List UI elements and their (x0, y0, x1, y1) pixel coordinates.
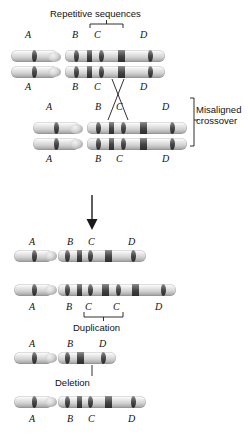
stage1-bottom-label-d: D (140, 82, 147, 92)
band (140, 122, 147, 134)
product1-label-a: A (29, 237, 35, 247)
stage1-top-label-b: B (72, 30, 78, 40)
duplication-bracket (84, 312, 123, 317)
band (77, 396, 82, 408)
chromatid-arm-right (65, 50, 165, 62)
band (131, 396, 136, 408)
chromatid-arm-right (87, 122, 187, 134)
product1-label-b: B (67, 237, 73, 247)
stage1-bottom-label-c: C (94, 82, 101, 92)
band (96, 138, 101, 150)
band (87, 50, 92, 62)
stage1-bottom-label-a: A (25, 82, 31, 92)
stage1-bottom-label-b: B (72, 82, 78, 92)
band (105, 396, 112, 408)
band (88, 396, 93, 408)
band (170, 138, 175, 150)
product4-label-b: B (67, 414, 73, 424)
product1-label-c: C (88, 237, 95, 247)
band (118, 66, 125, 78)
band (99, 50, 104, 62)
band (170, 122, 175, 134)
band (65, 250, 70, 262)
band (118, 50, 125, 62)
stage2-top-label-a: A (46, 102, 52, 112)
band (77, 284, 82, 296)
product2-label-d: D (155, 302, 162, 312)
band (121, 138, 126, 150)
product3-label-b: B (67, 339, 73, 349)
centromere (48, 67, 61, 77)
product2-label-a: A (29, 302, 35, 312)
centromere (70, 139, 83, 149)
band (65, 352, 70, 364)
band (96, 122, 101, 134)
misaligned-crossover-label: Misaligned crossover (196, 104, 249, 126)
product3-label-a: A (29, 339, 35, 349)
stage2-bottom-label-d: D (162, 154, 169, 164)
stage2-bottom-label-a: A (46, 154, 52, 164)
band (105, 250, 112, 262)
chromatid-arm-right (65, 66, 165, 78)
stage2-bottom-label-b: B (95, 154, 101, 164)
product3-label-d: D (99, 339, 106, 349)
band (74, 50, 79, 62)
band (102, 284, 109, 296)
band (32, 250, 37, 262)
misaligned-crossover-diagram: Repetitive sequences A B C D (0, 0, 249, 438)
centromere (45, 251, 57, 261)
stage1-top-label-d: D (140, 30, 147, 40)
centromere (48, 52, 61, 62)
stage2-top-label-d: D (162, 102, 169, 112)
stage1-top-label-a: A (25, 30, 31, 40)
chromatid-arm-right (58, 396, 146, 408)
band (88, 250, 93, 262)
band (131, 250, 136, 262)
stage2-top-label-c: C (116, 102, 123, 112)
band (65, 396, 70, 408)
chromatid-arm-right (58, 352, 116, 364)
centromere (45, 353, 57, 363)
crossover-line-1 (112, 79, 128, 120)
band (121, 122, 126, 134)
stage1-top-label-c: C (94, 30, 101, 40)
stage2-bottom-label-c: C (116, 154, 123, 164)
product4-label-a: A (29, 414, 35, 424)
band (99, 66, 104, 78)
centromere (45, 285, 57, 295)
product4-label-d: D (128, 414, 135, 424)
duplication-caption: Duplication (73, 322, 120, 333)
process-arrow-head (87, 219, 98, 230)
band (88, 284, 93, 296)
band (140, 138, 147, 150)
chromatid-arm-right (58, 284, 176, 296)
deletion-caption: Deletion (55, 377, 90, 388)
band (32, 396, 37, 408)
misaligned-crossover-line1: Misaligned (196, 104, 241, 115)
band (109, 138, 114, 150)
band (132, 284, 139, 296)
product2-label-b: B (66, 302, 72, 312)
product2-label-c2: C (113, 302, 120, 312)
band (101, 352, 106, 364)
band (32, 66, 37, 78)
chromatid-arm-right (58, 250, 146, 262)
band (148, 50, 153, 62)
crossover-line-2 (108, 79, 124, 120)
band (109, 122, 114, 134)
centromere (70, 124, 83, 134)
band (77, 352, 84, 364)
band (116, 284, 121, 296)
band (65, 284, 70, 296)
band (87, 66, 92, 78)
band (148, 66, 153, 78)
figure-title: Repetitive sequences (50, 8, 141, 19)
misaligned-crossover-bracket (190, 98, 194, 146)
repetitive-sequences-bracket (90, 24, 123, 28)
band (54, 138, 59, 150)
centromere (45, 397, 57, 407)
band (32, 352, 37, 364)
product1-label-d: D (128, 237, 135, 247)
stage2-top-label-b: B (95, 102, 101, 112)
chromatid-arm-right (87, 138, 187, 150)
